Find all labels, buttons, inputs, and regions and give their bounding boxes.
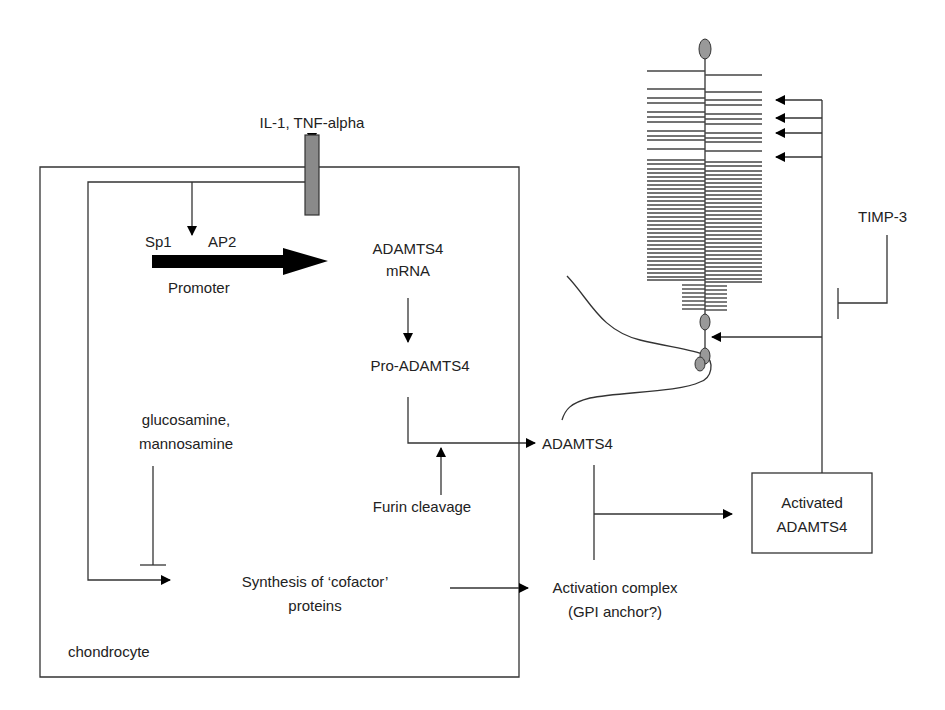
- pro-adamts4-label: Pro-ADAMTS4: [370, 357, 469, 374]
- mrna-label-line1: ADAMTS4: [373, 240, 444, 257]
- sp1-label: Sp1: [145, 233, 172, 250]
- stimulus-label: IL-1, TNF-alpha: [260, 114, 365, 131]
- synthesis-label-line1: Synthesis of ‘cofactor’: [242, 573, 388, 590]
- ap2-label: AP2: [208, 233, 236, 250]
- chondrocyte-cell-border: [40, 167, 519, 677]
- complex-label-line2: (GPI anchor?): [568, 603, 662, 620]
- thick-arrow-icon: [152, 248, 328, 275]
- inhibitor-label-line2: mannosamine: [139, 435, 233, 452]
- timp3-label: TIMP-3: [858, 208, 907, 225]
- promoter-label: Promoter: [168, 279, 230, 296]
- furin-label: Furin cleavage: [373, 498, 471, 515]
- link-node-1: [700, 314, 710, 330]
- synthesis-label-line2: proteins: [288, 597, 341, 614]
- receptor-bar-icon: [305, 135, 319, 215]
- link-node-3: [695, 357, 705, 371]
- chondrocyte-label: chondrocyte: [68, 643, 150, 660]
- activated-label-line1: Activated: [781, 494, 843, 511]
- timp3-inhibit-line: [838, 235, 887, 303]
- adamts4-label: ADAMTS4: [542, 435, 613, 452]
- inhibitor-label-line1: glucosamine,: [142, 411, 230, 428]
- complex-label-line1: Activation complex: [552, 579, 678, 596]
- activated-adamts4-box: [752, 473, 872, 553]
- activated-label-line2: ADAMTS4: [777, 518, 848, 535]
- pro-to-adamts4-arrow: [408, 397, 535, 443]
- mrna-label-line2: mRNA: [386, 262, 430, 279]
- signal-path-line: [88, 182, 305, 580]
- adamts4-pathway-diagram: IL-1, TNF-alpha Sp1 AP2 Promoter ADAMTS4…: [0, 0, 945, 710]
